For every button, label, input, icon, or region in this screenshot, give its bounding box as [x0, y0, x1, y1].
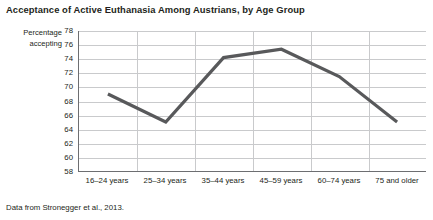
x-axis-tick-label: 35–44 years [202, 176, 245, 185]
chart-figure: Acceptance of Active Euthanasia Among Au… [0, 0, 433, 220]
y-axis-tick-label: 78 [6, 27, 73, 35]
data-line-series [108, 49, 397, 122]
y-axis-tick-label: 72 [6, 69, 73, 77]
y-axis-tick-label: 60 [6, 154, 73, 162]
source-note: Data from Stronegger et al., 2013. [6, 203, 124, 212]
chart-title: Acceptance of Active Euthanasia Among Au… [6, 4, 305, 15]
x-axis-tick-label: 60–74 years [318, 176, 361, 185]
x-axis-tick-label: 45–59 years [260, 176, 303, 185]
y-axis-tick-label: 58 [6, 168, 73, 176]
plot-area [78, 31, 426, 172]
y-axis-tick-label: 62 [6, 140, 73, 148]
y-axis-tick-label: 74 [6, 55, 73, 63]
y-axis-tick-label: 70 [6, 83, 73, 91]
x-axis-tick-label: 16–24 years [86, 176, 129, 185]
y-axis-tick-label: 76 [6, 41, 73, 49]
x-axis-tick-label: 75 and older [375, 176, 418, 185]
y-axis-tick-label: 68 [6, 98, 73, 106]
data-line-svg [79, 31, 426, 171]
x-axis-tick-label: 25–34 years [144, 176, 187, 185]
y-axis-tick-label: 64 [6, 126, 73, 134]
y-axis-tick-label: 66 [6, 112, 73, 120]
